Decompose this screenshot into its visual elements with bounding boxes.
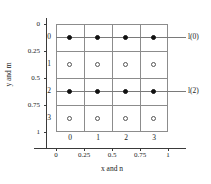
data-point-filled [67,35,72,40]
data-point-filled [95,35,100,40]
grid-line-horizontal [57,105,167,106]
series-label-l2: l(2) [188,87,199,95]
y-tick-mark [44,132,47,133]
data-point-open [151,116,156,121]
leader-line-l2 [56,91,186,92]
grid-line-horizontal [57,78,167,79]
x-tick-label-1: 1 [156,152,180,159]
data-point-filled [95,89,100,94]
x-tick-label-025: 0.25 [72,152,96,159]
y-tick-mark [44,24,47,25]
data-point-open [67,116,72,121]
y-tick-label-025: 0.25 [14,48,40,55]
data-point-open [123,116,128,121]
x-tick-label-05: 0.5 [100,152,124,159]
data-point-open [95,116,100,121]
data-point-open [151,62,156,67]
data-point-open [67,62,72,67]
data-point-filled [151,35,156,40]
x-axis-title: x and n [56,164,168,173]
x-tick-label-0: 0 [44,152,68,159]
y-tick-mark [44,78,47,79]
y-tick-mark [44,51,47,52]
y-tick-label-1: 1 [14,129,40,136]
figure-canvas: 0 0.25 0.5 0.75 1 0 0.25 0.5 0.75 1 0 1 … [0,0,211,184]
data-point-filled [151,89,156,94]
leader-line-l0 [56,37,186,38]
data-point-filled [123,35,128,40]
column-index-label-1: 1 [84,134,112,142]
row-index-label-0: 0 [44,33,54,41]
column-index-label-3: 3 [140,134,168,142]
series-label-l0: l(0) [188,33,199,41]
column-index-label-0: 0 [56,134,84,142]
x-tick-label-075: 0.75 [128,152,152,159]
data-point-open [95,62,100,67]
grid-line-horizontal [57,51,167,52]
row-index-label-1: 1 [44,60,54,68]
data-point-open [123,62,128,67]
row-index-label-3: 3 [44,114,54,122]
data-point-filled [123,89,128,94]
y-tick-label-0: 0 [14,21,40,28]
y-axis-title: y and m [4,47,13,103]
y-tick-mark [44,105,47,106]
y-tick-label-05: 0.5 [14,75,40,82]
data-point-filled [67,89,72,94]
row-index-label-2: 2 [44,87,54,95]
column-index-label-2: 2 [112,134,140,142]
y-tick-label-075: 0.75 [14,102,40,109]
